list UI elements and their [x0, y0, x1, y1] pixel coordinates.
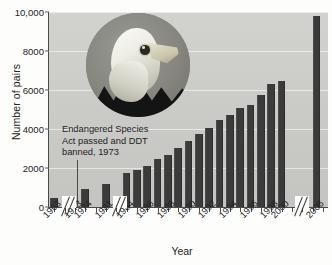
x-tick-mark: [323, 208, 324, 212]
bar: [195, 134, 203, 207]
axis-break-mask: [62, 196, 76, 208]
bar: [226, 115, 234, 207]
x-tick-label: 1963: [41, 198, 63, 220]
bar: [247, 105, 255, 207]
y-tick-mark: [45, 51, 49, 52]
bar: [313, 16, 321, 207]
bald-eagle-photo: [86, 13, 190, 117]
x-axis-title: Year: [0, 245, 332, 257]
bar: [185, 141, 193, 207]
y-axis-tick-labels: 0200040006000800010,000: [0, 0, 44, 265]
x-tick-mark: [302, 208, 303, 212]
bar: [154, 159, 162, 207]
bar: [236, 108, 244, 207]
y-tick-mark: [45, 207, 49, 208]
y-tick-label: 6000: [2, 85, 44, 96]
y-tick-label: 0: [2, 202, 44, 213]
axis-break-mask: [295, 196, 309, 208]
bar: [216, 120, 224, 207]
annotation-text: Endangered Species Act passed and DDT ba…: [62, 124, 148, 159]
bar: [205, 128, 213, 207]
y-tick-mark: [45, 129, 49, 130]
bar: [174, 148, 182, 207]
y-tick-label: 4000: [2, 124, 44, 135]
y-tick-label: 8000: [2, 46, 44, 57]
bar: [278, 81, 286, 207]
bald-eagle-population-chart: Number of pairs 0200040006000800010,000 …: [0, 0, 332, 265]
axis-break-mask: [113, 196, 127, 208]
y-tick-mark: [45, 168, 49, 169]
y-tick-label: 2000: [2, 163, 44, 174]
bar: [267, 84, 275, 207]
bar: [257, 95, 265, 207]
eagle-eye-highlight: [142, 46, 145, 49]
y-tick-label: 10,000: [2, 7, 44, 18]
y-tick-mark: [45, 90, 49, 91]
y-tick-mark: [45, 12, 49, 13]
bar: [133, 170, 141, 207]
x-tick-mark: [292, 208, 293, 212]
